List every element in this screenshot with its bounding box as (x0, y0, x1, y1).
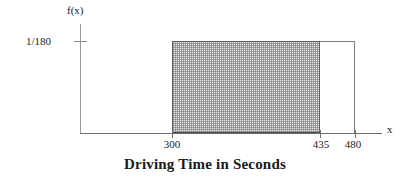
y-axis-tick-label-density: 1/180 (26, 36, 51, 47)
uniform-distribution-figure: f(x) x 1/180 300 435 480 Driving Time in… (0, 0, 420, 181)
y-axis-label: f(x) (67, 5, 84, 16)
x-axis-tick-480 (355, 130, 356, 138)
x-axis-label: x (387, 124, 393, 135)
x-axis-line (80, 133, 382, 134)
x-axis-tick-label-435: 435 (303, 139, 339, 150)
chart-title: Driving Time in Seconds (0, 156, 410, 173)
x-axis-tick-label-300: 300 (154, 139, 190, 150)
shaded-probability-region (172, 41, 320, 133)
x-axis-tick-435 (320, 130, 321, 138)
y-axis-tick-mark (74, 41, 87, 42)
x-axis-tick-label-480: 480 (335, 139, 371, 150)
x-axis-tick-300 (172, 130, 173, 138)
